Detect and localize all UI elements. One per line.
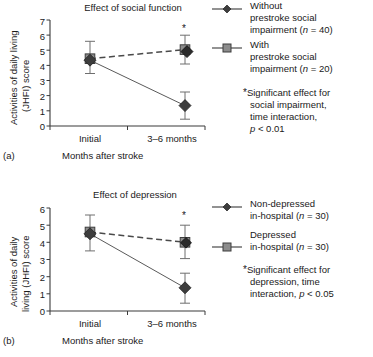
chart-b-xlabel: Months after stroke	[62, 335, 143, 346]
chart-a-note-line3: time interaction,	[250, 111, 317, 123]
panel-b: Effect of depression Activities of daily…	[0, 179, 373, 357]
chart-a-legend-key-diamond	[212, 3, 242, 15]
chart-b-note-line1: *Significant effect for	[243, 264, 330, 276]
chart-b-note-line3: interaction, p < 0.05	[250, 288, 334, 300]
chart-a-legend-label-2-line1: With	[250, 39, 269, 51]
panel-a-letter: (a)	[3, 150, 15, 161]
panel-b-letter: (b)	[3, 335, 15, 346]
chart-a-note-line4: p < 0.01	[250, 123, 285, 135]
chart-a-series-with-line	[90, 50, 185, 59]
chart-a-xtick-3-6-months: 3–6 months	[133, 133, 211, 144]
figure-root: Effect of social function Activities of …	[0, 0, 373, 357]
chart-a-note-line1: *Significant effect for	[243, 87, 330, 99]
panel-a: Effect of social function Activities of …	[0, 0, 373, 178]
chart-a-legend-label-2-line3: impairment (n = 20)	[250, 63, 333, 75]
chart-a-marker-diamond-3-6	[179, 100, 191, 112]
chart-a-legend-label-1-line3: impairment (n = 40)	[250, 24, 333, 36]
chart-b-series-nondepressed-line	[90, 234, 185, 288]
chart-a-legend-label-2-line2: prestroke social	[250, 51, 317, 63]
chart-b-legend-label-1-line1: Non-depressed	[250, 198, 315, 210]
chart-b-marker-diamond-3-6	[179, 282, 191, 294]
chart-b-significance-star: *	[182, 211, 186, 221]
chart-b-xtick-3-6-months: 3–6 months	[133, 318, 211, 329]
chart-b-note-line2: depression, time	[250, 276, 320, 288]
chart-b-note-text1: Significant effect for	[247, 264, 330, 275]
chart-a-significance-star: *	[182, 24, 186, 34]
chart-b-legend-label-1-line2: in-hospital (n = 30)	[250, 210, 329, 222]
chart-a-note-line2: social impairment,	[250, 99, 327, 111]
chart-a-note-text1: Significant effect for	[247, 87, 330, 98]
chart-b-legend-key-diamond	[212, 201, 242, 213]
chart-a-legend-label-1-line1: Without	[250, 0, 282, 12]
chart-a-series-without-line	[90, 60, 185, 105]
chart-a-xtick-initial: Initial	[55, 133, 125, 144]
chart-b-legend-key-square	[212, 241, 242, 253]
chart-a-legend-label-1-line2: prestroke social	[250, 12, 317, 24]
chart-b-legend-label-2-line2: in-hospital (n = 30)	[250, 241, 329, 253]
chart-b-xtick-initial: Initial	[55, 318, 125, 329]
chart-b-series-depressed-line	[90, 232, 185, 242]
chart-a-xlabel: Months after stroke	[62, 150, 143, 161]
chart-b-legend-label-2-line1: Depressed	[250, 229, 296, 241]
chart-a-legend-key-square	[212, 42, 242, 54]
